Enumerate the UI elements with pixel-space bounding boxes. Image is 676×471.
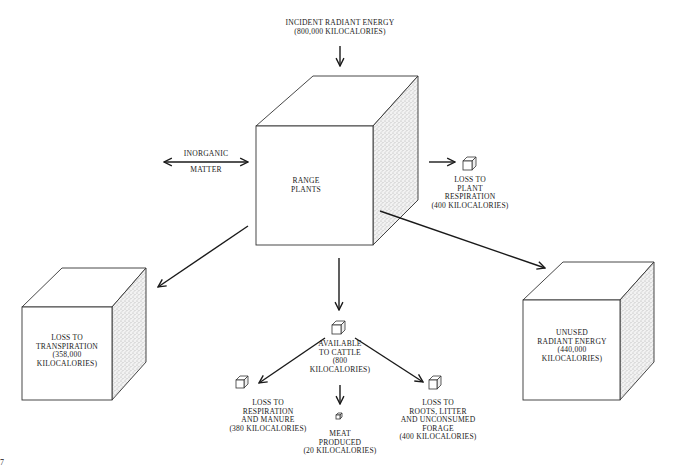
transpiration-label: LOSS TO TRANSPIRATION (358,000 KILOCALOR… (27, 334, 107, 368)
label-line: (400 KILOCALORIES) (420, 202, 520, 211)
page-marker: 7 (0, 458, 4, 467)
label-line: MATTER (176, 166, 236, 175)
label-line: (400 KILOCALORIES) (386, 433, 490, 442)
respiration-manure-label: LOSS TO RESPIRATION AND MANURE (380 KILO… (218, 399, 318, 433)
transpiration-arrow (158, 226, 248, 287)
available-cattle-label: AVAILABLE TO CATTLE (800 KILOCALORIES) (298, 340, 382, 374)
range-plants-cube (256, 76, 418, 245)
incident-energy-label: INCIDENT RADIANT ENERGY (800,000 KILOCAL… (270, 19, 410, 36)
meat-produced-label: MEAT PRODUCED (20 KILOCALORIES) (290, 430, 390, 456)
range-plants-label: RANGE PLANTS (276, 177, 336, 194)
respiration-manure-small-cube (236, 376, 248, 388)
label-line: INORGANIC (176, 150, 236, 159)
inorganic-label-bottom: MATTER (176, 166, 236, 175)
roots-litter-small-cube (429, 376, 441, 389)
inorganic-label-top: INORGANIC (176, 150, 236, 159)
label-line: PLANTS (276, 186, 336, 195)
unused-radiant-arrow (380, 211, 545, 268)
meat-small-cube (336, 413, 342, 419)
label-line: (20 KILOCALORIES) (290, 447, 390, 456)
label-line: KILOCALORIES) (526, 355, 618, 364)
plant-respiration-small-cube (463, 157, 476, 170)
label-line: KILOCALORIES) (298, 366, 382, 375)
cattle-small-cube (332, 321, 345, 334)
label-line: KILOCALORIES) (27, 360, 107, 369)
plant-respiration-label: LOSS TO PLANT RESPIRATION (400 KILOCALOR… (420, 176, 520, 210)
unused-radiant-label: UNUSED RADIANT ENERGY (440,000 KILOCALOR… (526, 329, 618, 363)
label-line: (800,000 KILOCALORIES) (270, 28, 410, 37)
roots-litter-label: LOSS TO ROOTS, LITTER AND UNCONSUMED FOR… (386, 399, 490, 442)
